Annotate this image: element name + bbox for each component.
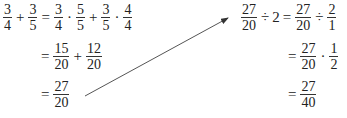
operator: ·	[320, 49, 325, 64]
fraction: 2720	[295, 3, 311, 32]
equals-sign: =	[288, 49, 296, 64]
number: 2	[272, 10, 280, 25]
fraction: 21	[327, 3, 336, 32]
equals-sign: =	[288, 87, 296, 102]
fraction: 2720	[300, 42, 316, 71]
operator: ÷	[261, 10, 269, 25]
fraction: 2720	[241, 3, 257, 32]
equals-sign: =	[283, 10, 291, 25]
operator: ÷	[315, 10, 323, 25]
fraction: 12	[329, 42, 338, 71]
fraction: 2740	[300, 80, 316, 109]
right-line-1: 2720 ÷ 2 = 2720 ÷ 21	[240, 3, 337, 32]
right-line-2: = 2720 · 12	[285, 42, 339, 71]
right-line-3: = 2740	[285, 80, 317, 109]
